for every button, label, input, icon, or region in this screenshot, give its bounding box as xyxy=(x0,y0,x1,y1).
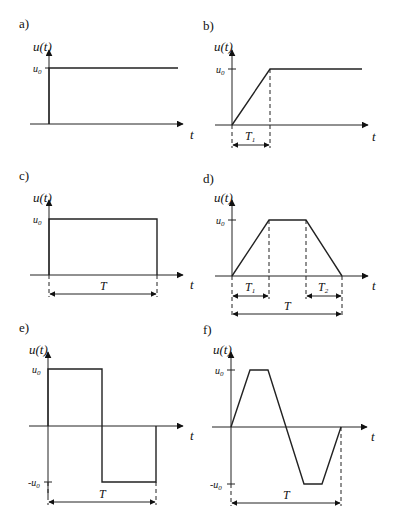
signal xyxy=(232,220,342,276)
svg-text:u0: u0 xyxy=(216,215,225,228)
signal xyxy=(232,69,362,125)
svg-text:T: T xyxy=(99,487,107,501)
svg-text:T: T xyxy=(283,488,291,502)
svg-text:-u0: -u0 xyxy=(28,477,40,490)
svg-text:u(t): u(t) xyxy=(214,39,233,54)
svg-text:u(t): u(t) xyxy=(29,342,48,357)
svg-text:t: t xyxy=(190,277,194,292)
panel-e xyxy=(29,352,183,505)
svg-text:u0: u0 xyxy=(216,64,225,77)
svg-text:u(t): u(t) xyxy=(33,190,52,205)
svg-text:T1: T1 xyxy=(245,129,255,144)
svg-text:T: T xyxy=(284,299,292,313)
svg-text:t: t xyxy=(190,127,194,142)
svg-text:u0: u0 xyxy=(33,63,42,76)
panel-d xyxy=(215,200,368,317)
svg-text:t: t xyxy=(372,129,376,144)
waveform-diagram: a) u(t) u0 t b) u(t) u0 t T1 c) u(t) u0 … xyxy=(0,0,393,528)
signal xyxy=(49,68,178,124)
svg-text:t: t xyxy=(190,428,194,443)
panel-b xyxy=(215,50,368,148)
svg-text:t: t xyxy=(372,278,376,293)
svg-text:u(t): u(t) xyxy=(214,190,233,205)
panel-label-b: b) xyxy=(203,18,214,33)
svg-text:t: t xyxy=(371,429,375,444)
panel-label-e: e) xyxy=(19,320,29,335)
svg-text:u0: u0 xyxy=(33,214,42,227)
svg-text:u0: u0 xyxy=(215,365,224,378)
svg-text:u(t): u(t) xyxy=(33,39,52,54)
svg-text:-u0: -u0 xyxy=(210,479,222,492)
signal xyxy=(49,219,157,275)
svg-text:T: T xyxy=(100,279,108,293)
panel-a xyxy=(30,50,183,124)
panel-label-d: d) xyxy=(203,171,214,186)
svg-text:u(t): u(t) xyxy=(213,342,232,357)
panel-label-c: c) xyxy=(19,168,29,183)
panel-f xyxy=(212,352,367,506)
svg-text:u0: u0 xyxy=(32,364,41,377)
svg-text:T2: T2 xyxy=(318,280,329,295)
panel-label-f: f) xyxy=(203,322,212,337)
panel-label-a: a) xyxy=(19,16,29,31)
svg-text:T1: T1 xyxy=(245,280,255,295)
